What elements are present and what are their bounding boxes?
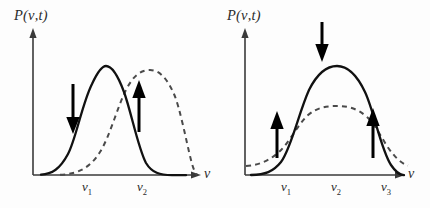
- increase-arrow-left-wing: [270, 111, 283, 158]
- x-tick-label-nu1: ν1: [281, 180, 291, 196]
- left-panel-spectral-shift: P(ν,t) ν1: [0, 0, 215, 208]
- dashed-curve-broadened-distribution: [246, 106, 408, 166]
- figure-spectral-diffusion: P(ν,t) ν1: [0, 0, 430, 208]
- x-tick-label-nu2: ν2: [137, 180, 147, 196]
- y-axis-arrowhead: [241, 28, 248, 38]
- right-panel-plot: [215, 0, 430, 208]
- x-tick-label-nu3: ν3: [381, 180, 391, 196]
- solid-curve-initial-distribution: [41, 66, 186, 175]
- decrease-arrow-center: [315, 22, 328, 62]
- x-tick-label-nu2: ν2: [331, 180, 341, 196]
- left-panel-plot: [0, 0, 215, 208]
- x-tick-label-nu1: ν1: [82, 180, 92, 196]
- dashed-curve-shifted-distribution: [60, 70, 197, 175]
- right-panel-spectral-broadening: P(ν,t): [215, 0, 430, 208]
- x-axis-label: ν: [408, 167, 414, 181]
- x-axis-label: ν: [204, 167, 210, 181]
- y-axis-arrowhead: [29, 28, 36, 38]
